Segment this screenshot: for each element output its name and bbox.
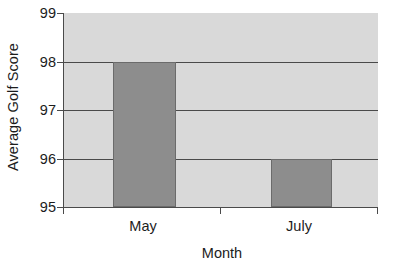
gridline-97 bbox=[64, 110, 378, 111]
gridline-98 bbox=[64, 62, 378, 63]
x-tick-mark-end bbox=[377, 208, 378, 214]
y-tick-label-99: 99 bbox=[40, 6, 56, 20]
y-tick-label-95: 95 bbox=[40, 200, 56, 214]
x-axis-title: Month bbox=[162, 245, 282, 261]
x-tick-label-may: May bbox=[83, 218, 203, 234]
y-tick-label-98: 98 bbox=[40, 55, 56, 69]
x-tick-mark-start bbox=[63, 208, 64, 214]
bar-may[interactable] bbox=[113, 62, 176, 208]
x-tick-mark-middle bbox=[220, 208, 221, 214]
y-axis-title: Average Golf Score bbox=[2, 2, 24, 212]
bar-july[interactable] bbox=[271, 159, 332, 208]
chart-figure: Average Golf Score 99 98 97 96 95 May Ju… bbox=[0, 0, 394, 269]
y-tick-label-96: 96 bbox=[40, 152, 56, 166]
plot-area bbox=[63, 13, 378, 208]
y-tick-label-97: 97 bbox=[40, 103, 56, 117]
x-tick-label-july: July bbox=[239, 218, 359, 234]
